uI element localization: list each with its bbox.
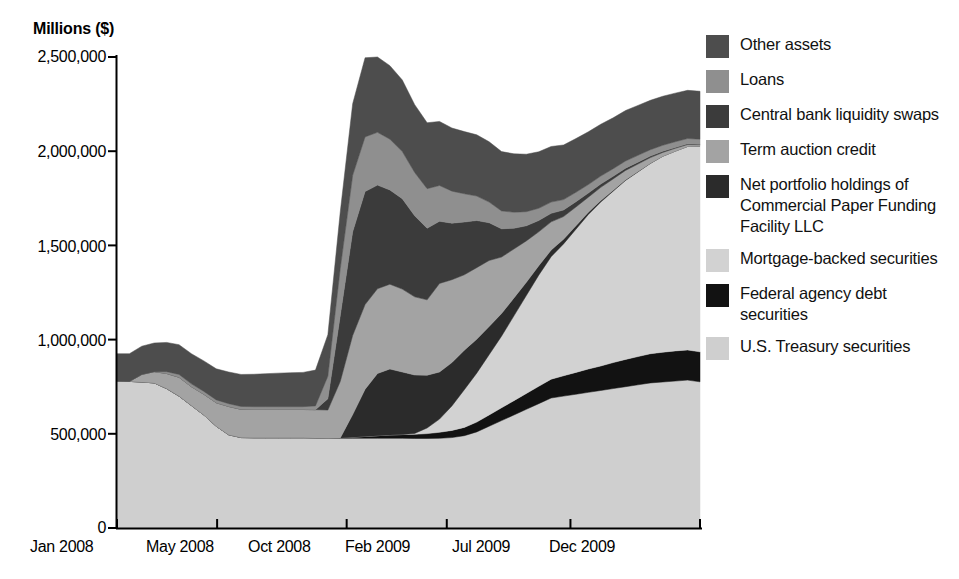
legend-swatch-icon [706, 175, 729, 198]
legend-item[interactable]: Net portfolio holdings of Commercial Pap… [706, 174, 956, 237]
chart-legend: Other assetsLoansCentral bank liquidity … [706, 34, 956, 371]
legend-swatch-icon [706, 284, 729, 307]
legend-item[interactable]: U.S. Treasury securities [706, 336, 956, 360]
legend-item-label: Other assets [740, 34, 831, 55]
legend-swatch-icon [706, 249, 729, 272]
legend-item-label: Term auction credit [740, 139, 876, 160]
legend-swatch-icon [706, 140, 729, 163]
chart-canvas: Millions ($) 2,500,000 2,000,000 1,500,0… [0, 0, 959, 579]
legend-item-label: Central bank liquidity swaps [740, 104, 939, 125]
legend-item-label: Net portfolio holdings of Commercial Pap… [740, 174, 956, 237]
legend-item[interactable]: Central bank liquidity swaps [706, 104, 956, 128]
legend-item[interactable]: Loans [706, 69, 956, 93]
legend-swatch-icon [706, 70, 729, 93]
legend-item-label: U.S. Treasury securities [740, 336, 910, 357]
legend-item-label: Federal agency debt securities [740, 283, 956, 325]
legend-swatch-icon [706, 35, 729, 58]
legend-item-label: Mortgage-backed securities [740, 248, 937, 269]
legend-item[interactable]: Term auction credit [706, 139, 956, 163]
legend-item[interactable]: Mortgage-backed securities [706, 248, 956, 272]
legend-item-label: Loans [740, 69, 784, 90]
stacked-areas [117, 57, 700, 528]
legend-item[interactable]: Federal agency debt securities [706, 283, 956, 325]
legend-item[interactable]: Other assets [706, 34, 956, 58]
legend-swatch-icon [706, 337, 729, 360]
legend-swatch-icon [706, 105, 729, 128]
